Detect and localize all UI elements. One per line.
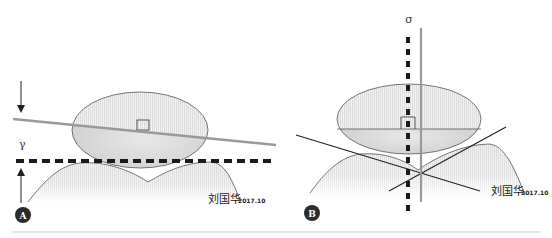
signature-date-b: 2017.10 [521,189,548,196]
angle-label-sigma: σ [405,13,413,26]
panel-badge-a: A [15,207,31,223]
svg-text:B: B [308,209,316,219]
panel-badge-b: B [304,205,320,221]
up-arrow-icon [17,168,25,203]
signature-b: 刘国华 [491,184,524,198]
angle-label-gamma: γ [19,138,26,151]
svg-text:A: A [19,211,28,221]
down-arrow-icon [17,81,25,113]
signature-a: 刘国华 [208,192,241,206]
diagram-canvas: γ 刘国华 2017.10 A [0,0,552,238]
panel-b: σ 刘国华 2017.10 B [296,13,548,221]
signature-date-a: 2017.10 [238,197,265,204]
panel-a: γ 刘国华 2017.10 A [13,81,276,223]
